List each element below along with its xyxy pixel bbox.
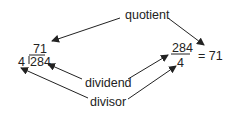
long-division-divisor: 4 xyxy=(18,56,25,69)
long-division-dividend: 284 xyxy=(30,56,51,69)
arrow-divisor-to-4 xyxy=(21,68,88,98)
label-divisor: divisor xyxy=(90,96,126,109)
fraction-result: = 71 xyxy=(198,50,223,63)
label-quotient: quotient xyxy=(125,9,169,22)
long-division-quotient: 71 xyxy=(33,43,47,56)
fraction-denominator: 4 xyxy=(177,57,184,70)
arrow-divisor-to-denominator xyxy=(128,66,176,99)
arrow-quotient-to-71 xyxy=(52,18,120,41)
arrow-dividend-to-284 xyxy=(48,64,82,79)
label-dividend: dividend xyxy=(85,77,132,90)
division-terms-diagram: quotient 71 4 284 284 4 = 71 dividend di… xyxy=(0,0,230,122)
fraction-numerator: 284 xyxy=(172,42,193,55)
